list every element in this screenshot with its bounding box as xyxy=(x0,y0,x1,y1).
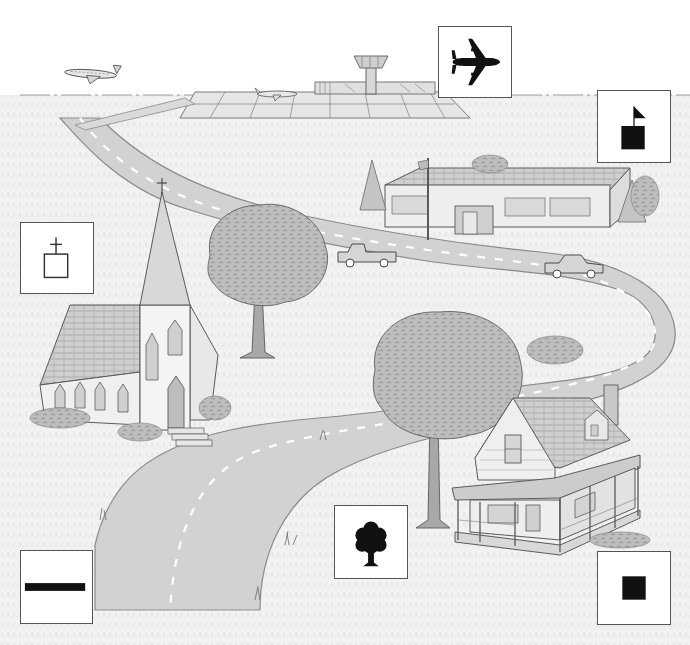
church-symbol-box xyxy=(20,222,94,294)
filled-square-icon xyxy=(598,552,670,624)
house-symbol-box xyxy=(597,551,671,625)
tree-icon xyxy=(335,506,407,578)
school-symbol-box xyxy=(597,90,671,163)
flag-on-square-icon xyxy=(598,91,670,162)
airport-symbol-box xyxy=(438,26,512,98)
thick-line-icon xyxy=(21,551,92,623)
cross-on-square-icon xyxy=(21,223,93,293)
airplane-icon xyxy=(439,27,511,97)
road-symbol-box xyxy=(20,550,93,624)
tree-symbol-box xyxy=(334,505,408,579)
